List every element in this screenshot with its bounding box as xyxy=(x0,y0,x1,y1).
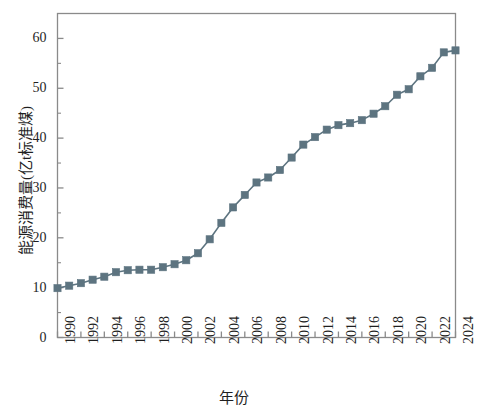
x-tick-label: 2016 xyxy=(367,316,383,344)
axis-frame xyxy=(58,14,456,338)
x-tick-label: 2014 xyxy=(344,316,360,344)
x-tick-label: 2006 xyxy=(250,316,266,344)
x-tick-label: 1996 xyxy=(133,316,149,344)
y-axis-ticks xyxy=(58,38,64,337)
x-axis-title: 年份 xyxy=(0,386,468,407)
x-tick-label: 2024 xyxy=(461,316,477,344)
x-tick-label: 1990 xyxy=(63,316,79,344)
x-tick-label: 2000 xyxy=(180,316,196,344)
y-axis-title: 能源消费量(亿t标准煤) xyxy=(14,71,35,291)
x-tick-label: 2022 xyxy=(438,316,454,344)
x-tick-label: 1994 xyxy=(110,316,126,344)
data-series-line xyxy=(58,50,456,288)
x-tick-label: 1998 xyxy=(157,316,173,344)
x-tick-label: 2010 xyxy=(297,316,313,344)
x-tick-label: 2018 xyxy=(391,316,407,344)
x-tick-label: 1992 xyxy=(86,316,102,344)
x-tick-label: 2002 xyxy=(203,316,219,344)
x-tick-label: 2020 xyxy=(414,316,430,344)
data-point-markers xyxy=(54,47,459,292)
y-tick-label: 0 xyxy=(0,330,47,346)
x-tick-label: 2012 xyxy=(321,316,337,344)
y-tick-label: 60 xyxy=(0,30,47,46)
x-tick-label: 2008 xyxy=(274,316,290,344)
x-tick-label: 2004 xyxy=(227,316,243,344)
